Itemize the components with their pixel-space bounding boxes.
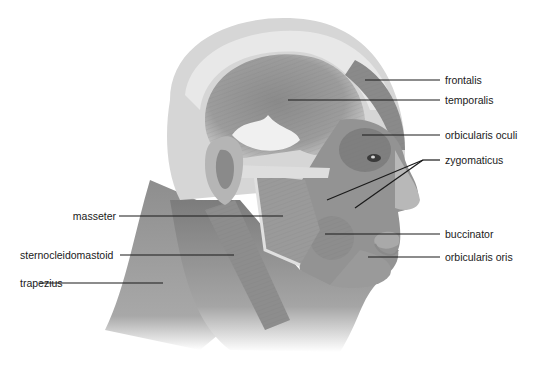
leader-lines xyxy=(0,0,535,372)
label-orbicularis-oris: orbicularis oris xyxy=(445,251,513,263)
label-masseter: masseter xyxy=(73,210,116,222)
label-frontalis: frontalis xyxy=(445,74,482,86)
label-temporalis: temporalis xyxy=(445,94,493,106)
label-buccinator: buccinator xyxy=(445,228,493,240)
label-sternocleidomastoid: sternocleidomastoid xyxy=(20,249,113,261)
anatomy-diagram: frontalis temporalis orbicularis oculi z… xyxy=(0,0,535,372)
label-trapezius: trapezius xyxy=(20,277,63,289)
label-orbicularis-oculi: orbicularis oculi xyxy=(445,129,517,141)
label-zygomaticus: zygomaticus xyxy=(445,154,503,166)
